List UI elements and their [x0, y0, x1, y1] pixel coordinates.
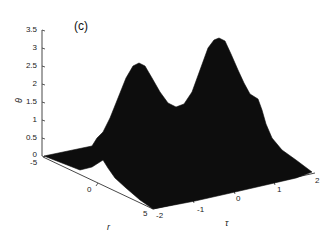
- surface-silhouette: [44, 38, 312, 209]
- tau-axis-label: τ: [225, 219, 228, 228]
- surface-plot: 3.5 3 2.5 2 1.5 1 0.5 0 -5 0 5 -2 -1 0 1…: [0, 0, 334, 236]
- z-tick-label: 3: [33, 44, 37, 52]
- tau-tick-label: 2: [315, 177, 319, 185]
- z-tick-label: 0.5: [26, 134, 37, 142]
- r-tick-label: 5: [143, 210, 147, 218]
- z-axis-label: θ: [15, 98, 24, 103]
- z-tick-label: 2: [33, 80, 37, 88]
- r-axis-label: r: [107, 223, 110, 232]
- tau-tick-label: 0: [236, 195, 240, 203]
- z-tick-label: 1.5: [26, 98, 37, 106]
- tau-tick-label: 1: [277, 186, 281, 194]
- z-tick-label: 1: [33, 116, 37, 124]
- r-tick-label: 0: [87, 186, 91, 194]
- z-tick-label: 3.5: [26, 26, 37, 34]
- r-tick-label: -5: [30, 159, 37, 167]
- panel-label: (c): [74, 20, 88, 32]
- z-tick-label: 2.5: [26, 62, 37, 70]
- tau-tick-label: -1: [197, 206, 204, 214]
- r-axis-ticks: [96, 183, 98, 186]
- plot-canvas: [0, 0, 334, 236]
- tau-tick-label: -2: [156, 212, 163, 220]
